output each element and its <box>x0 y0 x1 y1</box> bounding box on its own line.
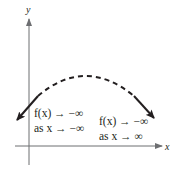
left-end-behavior-line2: as x → −∞ <box>34 122 84 134</box>
right-end-behavior-line2: as x → ∞ <box>99 130 143 142</box>
end-behavior-graph: y x f(x) → −∞ as x → −∞ f(x) → −∞ as x →… <box>0 0 177 171</box>
y-axis-label: y <box>25 4 31 15</box>
x-axis-label: x <box>164 141 170 152</box>
right-end-behavior-line1: f(x) → −∞ <box>99 115 148 128</box>
left-end-behavior-line1: f(x) → −∞ <box>34 107 83 120</box>
curve-dashed-middle <box>38 76 134 96</box>
